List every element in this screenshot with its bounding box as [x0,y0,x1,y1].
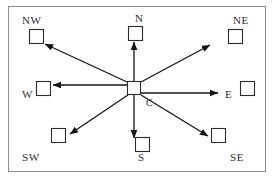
label-west: W [22,88,33,100]
node-south[interactable] [136,138,150,152]
compass-diagram: NWNNEWESWSSE C [0,0,277,180]
label-north: N [135,12,144,24]
node-southeast[interactable] [212,129,226,143]
node-west[interactable] [37,82,51,96]
compass-svg-canvas: NWNNEWESWSSE C [0,0,277,180]
label-southwest: SW [22,151,40,163]
label-northwest: NW [22,14,42,26]
label-east: E [225,88,232,100]
node-southwest[interactable] [52,129,66,143]
node-north[interactable] [129,27,143,41]
label-northeast: NE [233,14,249,26]
label-south: S [138,151,145,163]
center-node[interactable] [128,82,141,95]
node-northwest[interactable] [30,30,44,44]
node-east[interactable] [241,82,255,96]
center-label: C [146,97,153,108]
node-northeast[interactable] [229,30,243,44]
label-southeast: SE [230,151,244,163]
